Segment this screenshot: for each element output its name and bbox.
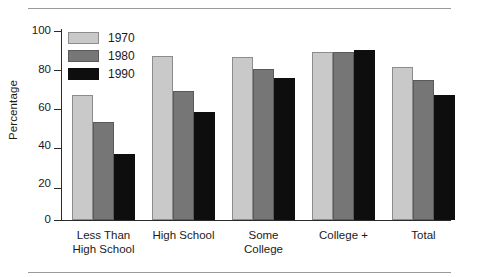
y-axis-tick-labels: Percentage 100 80 60 40 20 0: [0, 0, 51, 277]
bar-1980-less-than-high-school: [93, 122, 114, 220]
bar-1980-some-college: [253, 69, 274, 220]
bar-group: [72, 31, 135, 220]
y-tick-label-80: 80: [7, 64, 51, 76]
bar-1990-high-school: [194, 112, 215, 220]
x-axis-label: Total: [369, 228, 479, 242]
bar-1970-less-than-high-school: [72, 95, 93, 220]
y-tick-mark: [54, 188, 61, 189]
bar-1980-high-school: [173, 91, 194, 220]
bar-1970-some-college: [232, 57, 253, 220]
bar-1980-college: [333, 52, 354, 220]
x-axis-label-line: Total: [369, 228, 479, 242]
bar-1990-college: [354, 50, 375, 220]
bar-group: [152, 31, 215, 220]
x-axis-label-line: College: [209, 242, 319, 256]
x-axis-line: [61, 220, 451, 221]
bar-1980-total: [413, 80, 434, 220]
y-tick-mark: [54, 31, 61, 32]
y-tick-label-40: 40: [7, 140, 51, 152]
bar-1970-high-school: [152, 56, 173, 220]
bar-group: [232, 31, 295, 220]
y-tick-mark: [54, 220, 61, 221]
y-tick-label-20: 20: [7, 178, 51, 190]
bar-chart-figure: Percentage 100 80 60 40 20 0 1970 1980 1…: [0, 0, 479, 277]
y-tick-label-60: 60: [7, 102, 51, 114]
bar-1990-total: [434, 95, 455, 220]
bar-1990-some-college: [274, 78, 295, 220]
x-axis-label-line: High School: [49, 242, 159, 256]
top-divider-rule: [28, 8, 451, 9]
y-tick-label-0: 0: [7, 214, 51, 226]
bar-group: [312, 31, 375, 220]
bar-group: [392, 31, 455, 220]
y-tick-label-100: 100: [7, 25, 51, 37]
bottom-divider-rule: [28, 272, 451, 273]
y-tick-mark: [54, 70, 61, 71]
bar-1970-college: [312, 52, 333, 220]
bar-1990-less-than-high-school: [114, 154, 135, 220]
y-tick-mark: [54, 148, 61, 149]
bar-1970-total: [392, 67, 413, 220]
y-tick-mark: [54, 109, 61, 110]
